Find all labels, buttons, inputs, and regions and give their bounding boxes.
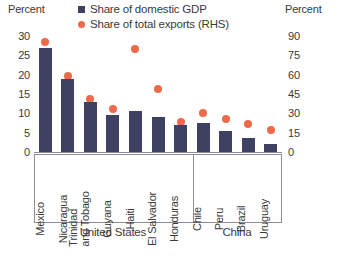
bar-slot [57,36,80,152]
bar-slot [34,36,57,152]
legend-item: Share of total exports (RHS) [78,17,278,32]
bar-slot [79,36,102,152]
left-axis-tick: 0 [24,146,30,158]
group-labels: United StatesChina [34,226,282,244]
bar-series-group [34,36,282,152]
bar [152,117,165,152]
right-axis-tick: 75 [288,49,300,61]
bar-slot [259,36,282,152]
right-axis-tick: 0 [288,146,294,158]
bar-slot [147,36,170,152]
category-column: Brazil [236,155,258,222]
bar [219,131,232,152]
scatter-point [244,120,252,128]
bar [174,125,187,152]
category-column: Peru [214,155,236,222]
chart-container: Percent Percent Share of domestic GDPSha… [0,0,338,261]
category-label-box: MexicoNicaraguaTrinidadand TobagoGuyanaH… [34,154,282,223]
bar [197,123,210,152]
scatter-point [41,38,49,46]
bar [39,48,52,152]
legend-item: Share of domestic GDP [78,2,278,17]
group-divider [193,155,194,222]
right-axis-tick: 60 [288,69,300,81]
legend-item-label: Share of total exports (RHS) [90,18,229,31]
bar [84,102,97,152]
category-column: Chile [192,155,214,222]
left-axis-tick: 5 [24,127,30,139]
category-column: Uruguay [259,155,281,222]
bar-slot [192,36,215,152]
scatter-point [109,105,117,113]
left-axis-tick: 20 [18,69,30,81]
bar [129,111,142,152]
left-axis-unit-label: Percent [8,3,45,15]
x-axis-baseline [34,152,282,153]
left-axis-tick: 10 [18,107,30,119]
group-label: China [222,226,251,238]
right-axis-tick: 45 [288,88,300,100]
scatter-point [131,45,139,53]
category-column: Guyana [102,155,124,222]
scatter-point [267,126,275,134]
scatter-point [199,109,207,117]
right-axis-tick: 90 [288,30,300,42]
bar-slot [169,36,192,152]
legend-item-label: Share of domestic GDP [90,3,207,16]
bar [242,138,255,152]
category-column: Haiti [124,155,146,222]
scatter-point [222,115,230,123]
right-axis-unit-label: Percent [285,3,322,15]
bar-slot [214,36,237,152]
left-axis-tick: 15 [18,88,30,100]
chart-legend: Share of domestic GDPShare of total expo… [78,2,278,32]
bar [61,79,74,152]
category-column: Honduras [169,155,191,222]
category-column: El Salvador [147,155,169,222]
legend-square-icon [78,6,85,13]
left-axis-tick: 30 [18,30,30,42]
legend-dot-icon [78,21,85,28]
left-axis-tick: 25 [18,49,30,61]
bar-slot [102,36,125,152]
bar [264,144,277,152]
bar-slot [237,36,260,152]
group-label: United States [80,226,146,238]
bar [106,115,119,152]
plot-area [34,36,282,153]
left-axis-ticks: 051015202530 [0,36,30,152]
right-axis-tick: 30 [288,107,300,119]
right-axis-tick: 15 [288,127,300,139]
right-axis-ticks: 0153045607590 [288,36,318,152]
category-column: Trinidadand Tobago [80,155,102,222]
scatter-point [154,85,162,93]
category-column: Mexico [35,155,57,222]
bar-slot [124,36,147,152]
